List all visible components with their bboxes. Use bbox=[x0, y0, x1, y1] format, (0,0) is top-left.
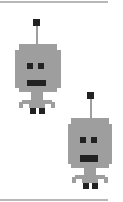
mouth bbox=[80, 155, 98, 162]
antenna-tip-icon bbox=[33, 19, 40, 26]
antenna-tip-icon bbox=[87, 92, 94, 99]
left-claw bbox=[72, 177, 76, 183]
left-eye bbox=[27, 63, 33, 69]
right-eye bbox=[91, 137, 97, 143]
top-divider bbox=[0, 1, 108, 3]
right-claw bbox=[51, 102, 55, 108]
robot-2 bbox=[66, 91, 116, 201]
robot-neck bbox=[31, 92, 43, 100]
right-claw bbox=[104, 177, 108, 183]
antenna-stick bbox=[90, 99, 92, 118]
head-side-right bbox=[109, 124, 112, 164]
left-foot bbox=[83, 183, 89, 189]
robot-1 bbox=[14, 18, 64, 128]
head-side-left bbox=[68, 124, 71, 164]
mouth bbox=[27, 80, 46, 86]
head-side-right bbox=[57, 50, 61, 88]
left-foot bbox=[30, 108, 36, 114]
right-foot bbox=[39, 108, 45, 114]
left-claw bbox=[19, 102, 23, 108]
left-eye bbox=[80, 137, 86, 143]
bottom-divider bbox=[0, 199, 108, 201]
head-side-left bbox=[15, 50, 19, 88]
right-eye bbox=[38, 63, 44, 69]
right-foot bbox=[92, 183, 98, 189]
antenna-stick bbox=[36, 26, 38, 44]
